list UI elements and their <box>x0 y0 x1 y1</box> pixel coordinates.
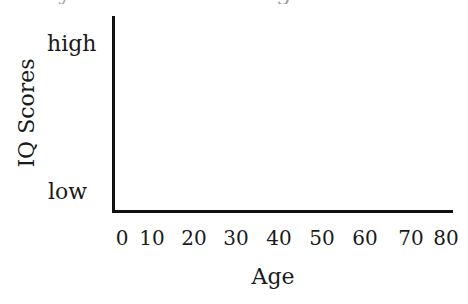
x-tick-label: 60 <box>352 228 377 248</box>
y-label-high: high <box>47 33 96 55</box>
clipped-title-fragment: y g <box>0 0 468 4</box>
x-tick-label: 30 <box>223 228 248 248</box>
title-fragment: g <box>276 0 291 4</box>
y-axis-title: IQ Scores <box>16 58 38 167</box>
x-axis-title: Age <box>252 266 295 288</box>
title-fragment: y <box>58 0 72 4</box>
x-tick-label: 40 <box>266 228 291 248</box>
x-tick-label: 0 <box>116 228 129 248</box>
x-tick-label: 10 <box>139 228 164 248</box>
x-tick-label: 80 <box>433 228 458 248</box>
x-axis-line <box>112 210 453 213</box>
x-tick-label: 70 <box>398 228 423 248</box>
x-tick-label: 20 <box>181 228 206 248</box>
y-label-low: low <box>48 181 87 203</box>
y-axis-line <box>112 16 115 213</box>
x-tick-label: 50 <box>309 228 334 248</box>
